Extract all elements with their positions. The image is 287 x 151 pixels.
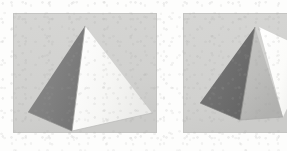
pyramid-view-a-canvas bbox=[13, 13, 157, 133]
figure-panel-right bbox=[183, 13, 287, 133]
figure-panel-left bbox=[13, 13, 157, 133]
figure-root bbox=[0, 0, 287, 151]
pyramid-view-b-canvas bbox=[183, 13, 287, 133]
